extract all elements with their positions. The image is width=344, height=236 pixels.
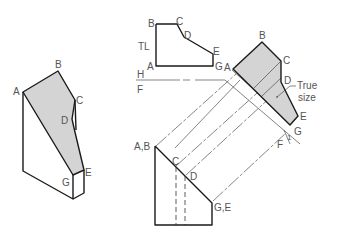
top-label-B: B <box>148 18 155 29</box>
fold-line-hf: H F <box>136 69 225 95</box>
front-label-GE: G,E <box>214 202 232 213</box>
aux-label-1: 1 <box>287 133 292 142</box>
top-label-E: E <box>213 46 220 57</box>
label-G: G <box>62 177 70 188</box>
label-B: B <box>55 59 62 70</box>
top-label-D: D <box>184 30 191 41</box>
pictorial-view: A B C D E G <box>13 59 92 199</box>
aux-label-F: F <box>277 139 283 150</box>
top-label-G: G <box>215 61 223 72</box>
top-label-A: A <box>147 61 154 72</box>
label-C: C <box>76 95 83 106</box>
front-label-AB: A,B <box>134 141 150 152</box>
aux-label-D: D <box>284 75 291 86</box>
true-size-note-line2: size <box>298 92 316 103</box>
label-D: D <box>61 115 68 126</box>
label-E: E <box>85 167 92 178</box>
true-size-note-line1: True <box>297 80 318 91</box>
aux-label-E: E <box>300 111 307 122</box>
front-label-D: D <box>190 171 197 182</box>
top-view: B C D E G A TL <box>138 16 223 72</box>
aux-label-G: G <box>294 126 302 137</box>
fold-label-F: F <box>137 84 143 95</box>
aux-label-A: A <box>224 62 231 73</box>
inclined-face <box>23 71 84 175</box>
auxiliary-view: B C D E G A F 1 True size <box>224 30 318 150</box>
aux-label-B: B <box>259 30 266 41</box>
aux-label-C: C <box>283 55 290 66</box>
front-view-outline <box>155 146 212 225</box>
fold-label-H: H <box>137 69 144 80</box>
label-A: A <box>13 86 20 97</box>
front-label-C: C <box>172 156 179 167</box>
true-length-label: TL <box>138 41 150 52</box>
front-view: A,B C D G,E <box>134 141 232 225</box>
top-label-C: C <box>176 16 183 27</box>
diagram-canvas: A B C D E G B C D E G A TL H F <box>0 0 344 236</box>
